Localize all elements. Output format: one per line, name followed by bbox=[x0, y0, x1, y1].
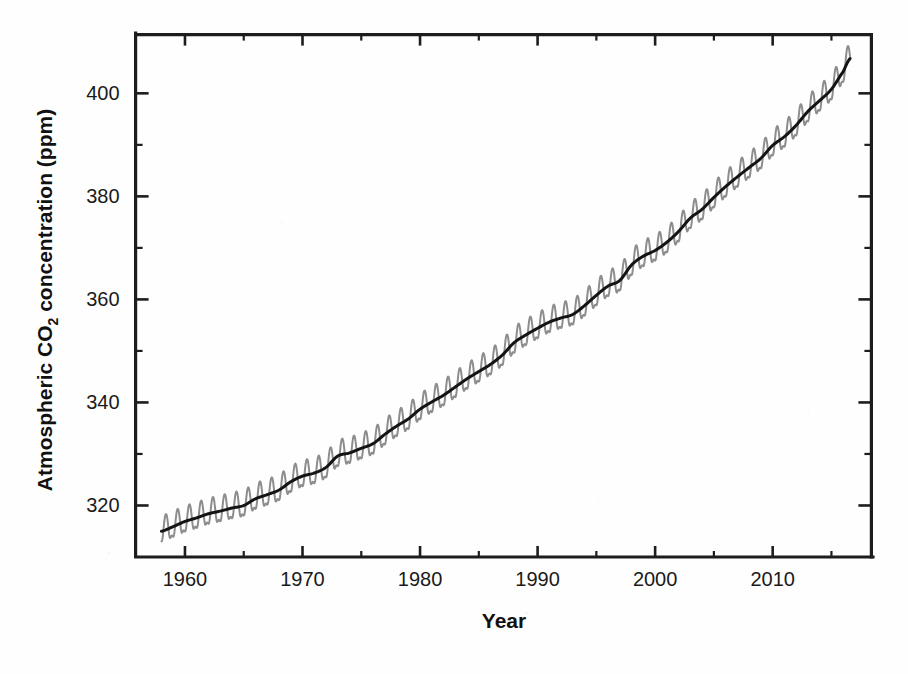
y-axis-title-pre: Atmospheric CO bbox=[33, 325, 56, 491]
y-tick-label: 320 bbox=[86, 494, 119, 516]
series-layer bbox=[161, 46, 850, 541]
x-tick-label: 2000 bbox=[633, 568, 678, 590]
x-axis-tick-labels: 196019701980199020002010 bbox=[163, 568, 795, 590]
x-tick-label: 1960 bbox=[163, 568, 208, 590]
y-axis-title-post: concentration (ppm) bbox=[33, 109, 56, 318]
x-axis-title: Year bbox=[482, 609, 526, 632]
series-seasonal-line bbox=[161, 46, 850, 541]
y-axis-title-subscript: 2 bbox=[45, 317, 61, 325]
figure-canvas: 196019701980199020002010 320340360380400… bbox=[0, 0, 908, 674]
axis-spine-top-right bbox=[136, 35, 872, 557]
axis-spine-left-bottom bbox=[136, 33, 873, 557]
series-trend-line bbox=[161, 58, 850, 531]
co2-line-chart: 196019701980199020002010 320340360380400… bbox=[0, 0, 908, 674]
x-tick-label: 2010 bbox=[750, 568, 795, 590]
tick-marks bbox=[136, 35, 872, 557]
x-tick-label: 1990 bbox=[515, 568, 560, 590]
y-tick-label: 340 bbox=[86, 391, 119, 413]
x-tick-label: 1980 bbox=[398, 568, 443, 590]
x-tick-label: 1970 bbox=[280, 568, 325, 590]
y-axis-title: Atmospheric CO2 concentration (ppm) bbox=[33, 109, 61, 491]
y-axis-tick-labels: 320340360380400 bbox=[86, 82, 119, 516]
y-tick-label: 360 bbox=[86, 288, 119, 310]
y-tick-label: 400 bbox=[86, 82, 119, 104]
y-tick-label: 380 bbox=[86, 185, 119, 207]
